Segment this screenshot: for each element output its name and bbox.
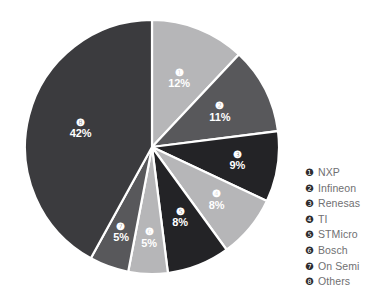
legend-marker-icon: ❶ [305,165,318,181]
legend-item-label: TI [318,212,328,228]
chart-legend: ❶NXP❷Infineon❸Renesas❹TI❺STMicro❻Bosch❼O… [305,165,371,290]
legend-item-stmicro[interactable]: ❺STMicro [305,227,371,243]
legend-marker-icon: ❸ [305,196,318,212]
legend-item-ti[interactable]: ❹TI [305,212,371,228]
legend-item-label: NXP [318,165,340,181]
legend-item-label: Renesas [318,196,360,212]
pie-svg [24,19,280,275]
legend-item-renesas[interactable]: ❸Renesas [305,196,371,212]
legend-item-others[interactable]: ❽Others [305,274,371,290]
legend-marker-icon: ❻ [305,243,318,259]
pie-chart-figure: ❶12%❷11%❸9%❹8%❺8%❻5%❼5%❽42% ❶NXP❷Infineo… [0,0,372,301]
legend-item-label: Bosch [318,243,348,259]
legend-item-on-semi[interactable]: ❼On Semi [305,259,371,275]
legend-item-label: On Semi [318,259,360,275]
legend-item-bosch[interactable]: ❻Bosch [305,243,371,259]
legend-item-infineon[interactable]: ❷Infineon [305,181,371,197]
pie-chart-plot-area: ❶12%❷11%❸9%❹8%❺8%❻5%❼5%❽42% [24,19,280,275]
legend-item-label: Others [318,274,350,290]
legend-marker-icon: ❼ [305,259,318,275]
legend-marker-icon: ❺ [305,227,318,243]
legend-item-nxp[interactable]: ❶NXP [305,165,371,181]
legend-marker-icon: ❷ [305,181,318,197]
legend-item-label: Infineon [318,181,356,197]
legend-item-label: STMicro [318,227,358,243]
legend-marker-icon: ❹ [305,212,318,228]
pie-slice-group [25,20,279,274]
legend-marker-icon: ❽ [305,274,318,290]
